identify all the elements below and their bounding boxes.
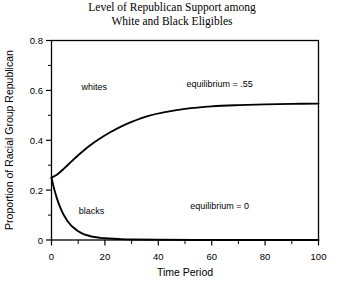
y-axis-title: Proportion of Racial Group Republican	[3, 50, 15, 230]
y-tick-label-0.6: 0.6	[30, 85, 43, 96]
series-line-whites	[52, 104, 319, 178]
y-tick-label-0.2: 0.2	[30, 185, 43, 196]
annotation-equilibrium-blacks: equilibrium = 0	[190, 201, 249, 211]
x-tick-label-40: 40	[153, 251, 164, 262]
chart-figure: Level of Republican Support among White …	[0, 0, 344, 281]
x-tick-label-0: 0	[49, 251, 54, 262]
x-tick-label-100: 100	[311, 251, 327, 262]
chart-plot-area: 0.8 0.6 0.4 0.2 0 0 20 40 60 80 100 Time…	[0, 0, 344, 281]
x-axis-title: Time Period	[157, 266, 213, 278]
y-tick-label-0: 0	[38, 235, 43, 246]
curve-label-whites: whites	[80, 82, 107, 92]
annotation-equilibrium-whites: equilibrium = .55	[187, 79, 253, 89]
x-tick-label-20: 20	[100, 251, 111, 262]
x-tick-label-60: 60	[206, 251, 217, 262]
y-tick-label-0.4: 0.4	[30, 135, 43, 146]
y-axis-major-ticks	[46, 41, 52, 241]
y-tick-label-0.8: 0.8	[30, 35, 43, 46]
x-tick-label-80: 80	[260, 251, 271, 262]
curve-label-blacks: blacks	[79, 206, 105, 216]
